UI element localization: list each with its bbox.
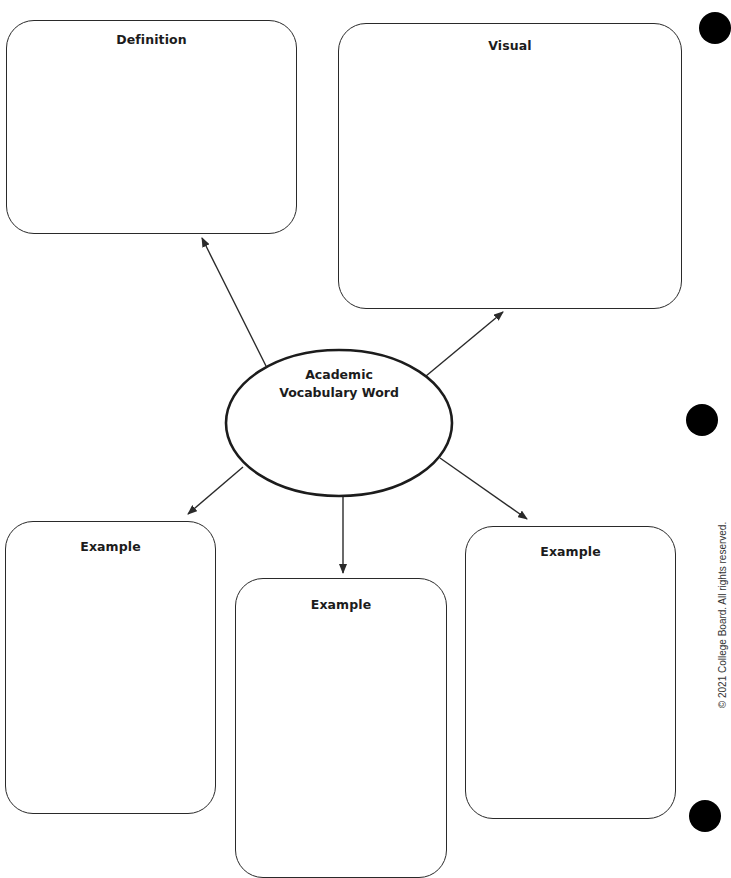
- copyright-notice: © 2021 College Board. All rights reserve…: [717, 522, 728, 708]
- center-ellipse-label: Academic Vocabulary Word: [226, 366, 452, 402]
- example-box-right-title: Example: [466, 544, 675, 559]
- hole-punch-middle-icon: [686, 404, 718, 436]
- hole-punch-top-icon: [699, 12, 731, 44]
- example-box-left[interactable]: Example: [5, 521, 216, 814]
- arrow-to-example-left: [188, 467, 243, 514]
- arrow-to-example-right: [440, 458, 527, 519]
- hole-punch-bottom-icon: [689, 800, 721, 832]
- definition-box[interactable]: Definition: [6, 20, 297, 234]
- arrow-to-definition: [202, 238, 266, 366]
- visual-box[interactable]: Visual: [338, 23, 682, 309]
- example-box-middle[interactable]: Example: [235, 578, 447, 878]
- example-box-left-title: Example: [6, 539, 215, 554]
- center-label-line1: Academic: [226, 366, 452, 384]
- definition-box-title: Definition: [7, 32, 296, 47]
- visual-box-title: Visual: [339, 38, 681, 53]
- example-box-middle-title: Example: [236, 597, 446, 612]
- example-box-right[interactable]: Example: [465, 526, 676, 819]
- center-label-line2: Vocabulary Word: [226, 384, 452, 402]
